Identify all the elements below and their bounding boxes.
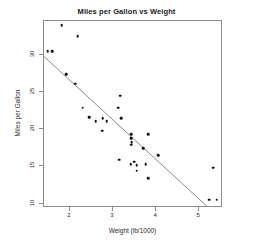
scatter-plot-figure: Miles per Gallon vs Weight 1015202530 23… [0,0,253,245]
data-point [135,169,138,172]
chart-title: Miles per Gallon vs Weight [0,7,253,16]
data-point [76,35,79,38]
x-tick-label: 4 [153,212,156,218]
data-point [51,50,54,53]
data-point [133,160,136,163]
data-point [101,117,104,120]
data-point [147,177,150,180]
data-point [130,133,133,136]
data-point [94,120,97,123]
data-point [120,117,123,120]
data-point [157,154,160,157]
data-point [118,158,121,161]
data-point [142,147,145,150]
data-point [212,166,215,169]
data-point [74,83,77,86]
x-tick-label: 5 [197,212,200,218]
x-tick-mark [112,207,113,211]
data-point [81,106,84,109]
y-tick-label: 10 [29,199,35,206]
y-tick-label: 20 [29,125,35,132]
data-point [144,163,147,166]
data-point [60,24,63,27]
y-tick-label: 30 [29,51,35,58]
data-point [129,163,132,166]
x-tick-mark [198,207,199,211]
data-point [105,120,108,123]
data-point [117,106,120,109]
data-point [101,129,104,132]
data-point [88,116,91,119]
data-point [130,143,133,146]
y-axis-label: Miles per Gallon [14,90,21,137]
data-points-layer [43,20,222,207]
data-point [135,164,138,167]
data-point [65,73,68,76]
data-point [119,94,122,97]
y-tick-label: 25 [29,88,35,95]
data-point [215,198,218,201]
x-tick-label: 3 [110,212,113,218]
x-tick-mark [69,207,70,211]
data-point [147,133,150,136]
x-tick-label: 2 [67,212,70,218]
x-axis-label: Weight (lb/1000) [43,227,222,234]
data-point [130,137,133,140]
x-tick-mark [155,207,156,211]
data-point [47,50,50,53]
y-tick-label: 15 [29,162,35,169]
data-point [208,198,211,201]
